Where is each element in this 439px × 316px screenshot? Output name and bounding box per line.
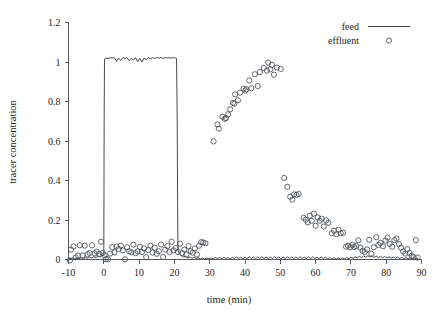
y-tick-label: 0.8 bbox=[48, 96, 61, 107]
y-tick-label: 0.6 bbox=[48, 136, 61, 147]
legend-item-effluent-label: effluent bbox=[328, 35, 359, 46]
x-tick-label: 60 bbox=[311, 267, 321, 278]
x-tick-label: -10 bbox=[62, 267, 75, 278]
x-axis-title: time (min) bbox=[207, 294, 252, 306]
y-tick-label: 0.2 bbox=[48, 215, 61, 226]
y-tick-label: 0.4 bbox=[48, 175, 61, 186]
x-tick-label: 90 bbox=[417, 267, 427, 278]
y-axis-title: tracer concentration bbox=[7, 99, 18, 183]
x-tick-label: 10 bbox=[134, 267, 144, 278]
tracer-concentration-chart: -100102030405060708090 00.20.40.60.811.2… bbox=[0, 0, 439, 316]
x-tick-label: 80 bbox=[381, 267, 391, 278]
x-tick-label: 30 bbox=[205, 267, 215, 278]
x-tick-label: 70 bbox=[346, 267, 356, 278]
x-tick-label: 40 bbox=[240, 267, 250, 278]
legend-item-feed-label: feed bbox=[342, 21, 359, 32]
y-tick-label: 0 bbox=[56, 254, 61, 265]
x-tick-label: 20 bbox=[169, 267, 179, 278]
x-tick-label: 50 bbox=[275, 267, 285, 278]
x-tick-label: 0 bbox=[101, 267, 106, 278]
chart-container: -100102030405060708090 00.20.40.60.811.2… bbox=[0, 0, 439, 316]
y-tick-label: 1.2 bbox=[48, 17, 61, 28]
y-tick-label: 1 bbox=[56, 57, 61, 68]
